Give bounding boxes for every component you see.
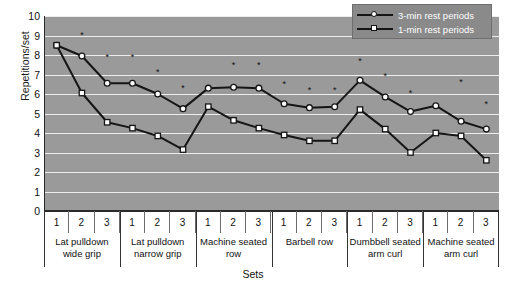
data-point-marker [408,109,414,115]
x-axis: 123Lat pulldownwide grip123Lat pulldownn… [44,211,499,296]
x-tick-label-set: 3 [322,211,347,233]
significance-star: * [459,77,463,87]
data-point-marker [408,150,413,155]
y-tick-label: 1 [20,187,40,197]
legend-line-swatch [357,28,393,30]
data-point-marker [307,138,312,143]
y-tick-label: 3 [20,148,40,158]
y-tick-label: 8 [20,50,40,60]
legend-item-1: 3-min rest periods [357,8,487,22]
x-group-separator [423,211,424,267]
x-tick-label-set: 2 [373,211,398,233]
x-group-separator [120,211,121,267]
data-point-marker [332,138,337,143]
data-point-marker [205,85,211,91]
data-point-marker [458,133,463,138]
x-tick-label-set: 3 [246,211,271,233]
x-group-label: Lat pulldownnarrow grip [120,233,196,267]
x-group-label-line1: Machine seated [196,236,272,248]
data-point-marker [180,147,185,152]
data-point-marker [484,158,489,163]
x-group-label-line1: Barbell row [272,236,348,248]
y-tick-label: 0 [20,206,40,216]
legend-line-swatch [357,14,393,16]
data-point-marker [79,53,85,59]
legend-square-marker-icon [371,25,377,31]
significance-star: * [282,79,286,89]
x-group-separator [347,211,348,267]
significance-star: * [181,83,185,93]
x-group-label: Dumbbell seatedarm curl [347,233,423,267]
significance-star: * [80,30,84,40]
x-group-label-line2: row [196,248,272,260]
data-point-marker [206,104,211,109]
data-point-marker [256,125,261,130]
x-group-label-line2: arm curl [347,248,423,260]
data-point-marker [382,94,388,100]
y-tick-label: 6 [20,89,40,99]
legend-label: 1-min rest periods [398,24,474,35]
x-tick-label-set: 3 [474,211,499,233]
data-point-marker [79,90,84,95]
x-group-label-line2: narrow grip [120,248,196,260]
x-tick-label-set: 2 [297,211,322,233]
x-tick-label-set: 3 [170,211,195,233]
significance-star: * [156,67,160,77]
data-point-marker [483,126,489,132]
x-tick-label-set: 3 [95,211,120,233]
data-point-marker [433,103,439,109]
data-point-marker [281,132,286,137]
series-line-1 [57,45,487,129]
data-point-marker [104,120,109,125]
x-tick-label-set: 1 [44,211,69,233]
x-group-label: Barbell row [272,233,348,267]
significance-star: * [358,56,362,66]
significance-star: * [383,71,387,81]
data-point-marker [180,106,186,112]
y-tick-label: 5 [20,109,40,119]
data-point-marker [104,80,110,86]
x-tick-label-set: 2 [145,211,170,233]
data-point-marker [357,77,363,83]
x-group-label: Lat pulldownwide grip [44,233,120,267]
x-group-label: Machine seatedarm curl [423,233,499,267]
x-tick-label-set: 1 [120,211,145,233]
data-point-marker [281,101,287,107]
legend-label: 3-min rest periods [398,10,474,21]
x-group-label-line2: arm curl [423,248,499,260]
x-group-separator [272,211,273,267]
y-tick-label: 7 [20,70,40,80]
data-series-layer: *************** [44,16,499,211]
significance-star: * [257,60,261,70]
x-group-label-line1: Lat pulldown [120,236,196,248]
y-tick-label: 9 [20,31,40,41]
data-point-marker [155,133,160,138]
x-tick-label-set: 1 [272,211,297,233]
legend-item-2: 1-min rest periods [357,22,487,36]
y-tick-label: 4 [20,128,40,138]
significance-star: * [131,52,135,62]
significance-star: * [485,99,489,109]
x-tick-label-set: 1 [196,211,221,233]
significance-star: * [105,52,109,62]
data-point-marker [155,91,161,97]
x-group-label-line2: wide grip [44,248,120,260]
legend: 3-min rest periods1-min rest periods [352,4,492,39]
data-point-marker [130,125,135,130]
data-point-marker [458,118,464,124]
significance-star: * [333,85,337,95]
x-group-label-line1: Machine seated [423,236,499,248]
y-tick-label: 2 [20,167,40,177]
x-tick-label-set: 1 [423,211,448,233]
legend-circle-marker-icon [371,11,377,17]
data-point-marker [130,80,136,86]
data-point-marker [54,43,59,48]
data-point-marker [332,104,338,110]
y-tick-label: 10 [20,11,40,21]
x-group-separator [44,211,45,267]
x-group-label: Machine seatedrow [196,233,272,267]
x-tick-label-set: 2 [69,211,94,233]
significance-star: * [232,60,236,70]
x-group-label-line1: Dumbbell seated [347,236,423,248]
significance-star: * [409,88,413,98]
